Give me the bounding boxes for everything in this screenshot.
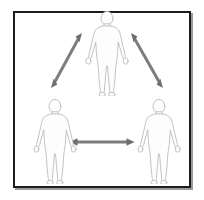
person-top [86,11,128,96]
diagram-canvas [0,0,204,200]
arrow-top-to-bottom-right [131,33,163,88]
person-bottom-left [34,99,76,184]
arrow-top-to-bottom-left [51,33,82,88]
diagram-root [0,0,204,200]
person-group [34,11,180,184]
person-bottom-right [138,99,180,184]
arrow-bottom-left-to-bottom-right [70,138,135,146]
